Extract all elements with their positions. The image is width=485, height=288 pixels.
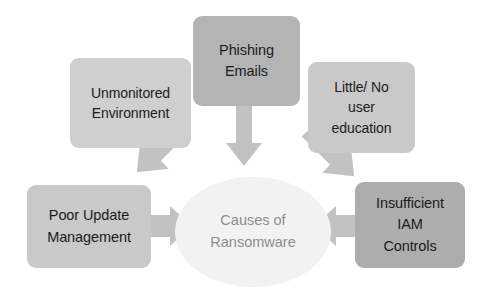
arrow-phishing-to-center: [226, 100, 262, 166]
node-unmonitored-environment-label-line1: Unmonitored: [91, 85, 170, 101]
node-phishing-emails-label: PhishingEmails: [214, 40, 279, 82]
node-phishing-emails-label-line1: Phishing: [219, 42, 274, 58]
node-insufficient-iam-controls-label-line2: IAM: [397, 216, 422, 232]
node-phishing-emails[interactable]: PhishingEmails: [193, 16, 300, 106]
node-little-no-user-education-label-line2: user: [348, 99, 375, 115]
node-insufficient-iam-controls-label: InsufficientIAMControls: [371, 193, 449, 256]
node-little-no-user-education-label: Little/ Nousereducation: [327, 77, 397, 138]
center-node-causes-of-ransomware[interactable]: Causes ofRansomware: [175, 177, 331, 287]
center-node-label-line1: Causes of: [220, 212, 285, 228]
node-unmonitored-environment-label-line2: Environment: [92, 105, 170, 121]
center-node-label-line2: Ransomware: [210, 234, 295, 250]
center-node-label: Causes ofRansomware: [210, 210, 295, 254]
node-little-no-user-education-label-line1: Little/ No: [334, 79, 388, 95]
node-poor-update-management[interactable]: Poor UpdateManagement: [27, 185, 151, 268]
node-poor-update-management-label-line1: Poor Update: [49, 207, 129, 223]
node-little-no-user-education[interactable]: Little/ Nousereducation: [308, 62, 415, 153]
node-phishing-emails-label-line2: Emails: [225, 63, 268, 79]
node-unmonitored-environment[interactable]: UnmonitoredEnvironment: [70, 58, 191, 148]
node-little-no-user-education-label-line3: education: [332, 120, 392, 136]
node-insufficient-iam-controls-label-line1: Insufficient: [376, 195, 444, 211]
node-poor-update-management-label-line2: Management: [47, 229, 131, 245]
node-insufficient-iam-controls-label-line3: Controls: [383, 238, 436, 254]
node-unmonitored-environment-label: UnmonitoredEnvironment: [86, 83, 175, 124]
node-insufficient-iam-controls[interactable]: InsufficientIAMControls: [355, 182, 465, 268]
diagram-canvas: Causes ofRansomware PhishingEmails Unmon…: [0, 0, 485, 288]
node-poor-update-management-label: Poor UpdateManagement: [42, 205, 136, 247]
